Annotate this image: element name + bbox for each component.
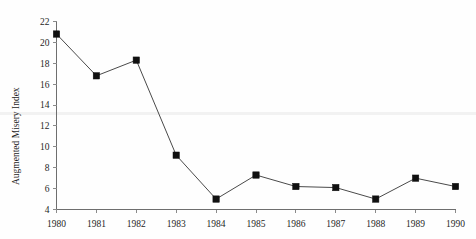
data-point-marker — [133, 57, 139, 63]
y-tick-label: 16 — [40, 80, 50, 90]
x-tick-label: 1983 — [167, 219, 186, 229]
data-point-marker — [293, 183, 299, 189]
x-axis-ticks: 1980198119821983198419851986198719881989… — [47, 210, 465, 229]
y-axis-ticks: 46810121416182022 — [40, 17, 57, 215]
y-tick-label: 14 — [40, 100, 50, 110]
x-tick-label: 1988 — [366, 219, 385, 229]
x-tick-label: 1980 — [47, 219, 66, 229]
y-tick-label: 4 — [45, 205, 50, 215]
data-point-marker — [452, 183, 458, 189]
x-tick-label: 1990 — [446, 219, 465, 229]
x-tick-label: 1984 — [207, 219, 226, 229]
data-point-marker — [373, 196, 379, 202]
x-tick-label: 1989 — [406, 219, 425, 229]
data-point-marker — [93, 73, 99, 79]
data-point-marker — [412, 175, 418, 181]
data-point-marker — [253, 172, 259, 178]
y-tick-label: 8 — [45, 163, 50, 173]
data-point-marker — [213, 196, 219, 202]
y-tick-label: 12 — [40, 121, 50, 131]
data-point-markers — [53, 31, 458, 202]
y-tick-label: 18 — [40, 59, 50, 69]
y-tick-label: 10 — [40, 142, 50, 152]
data-point-marker — [173, 152, 179, 158]
data-point-marker — [333, 184, 339, 190]
y-tick-label: 6 — [45, 184, 50, 194]
x-tick-label: 1986 — [286, 219, 305, 229]
x-tick-label: 1982 — [127, 219, 146, 229]
x-tick-label: 1985 — [247, 219, 266, 229]
y-tick-label: 20 — [40, 38, 50, 48]
y-axis-label: Augmented Misery Index — [11, 87, 21, 185]
x-tick-label: 1987 — [326, 219, 345, 229]
chart-figure: Augmented Misery Index 46810121416182022… — [0, 0, 476, 239]
y-tick-label: 22 — [40, 17, 50, 27]
line-chart-plot: Augmented Misery Index 46810121416182022… — [0, 0, 476, 239]
data-point-marker — [53, 31, 59, 37]
x-tick-label: 1981 — [87, 219, 106, 229]
